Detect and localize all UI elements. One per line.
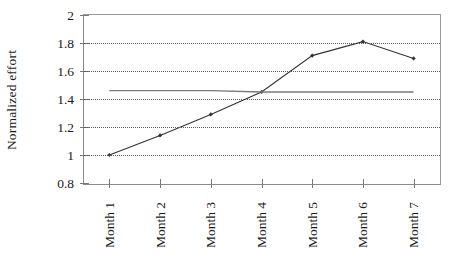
x-axis-tick-label-text: Month 4 — [254, 190, 270, 260]
x-axis-tick-label-text: Month 2 — [153, 190, 169, 260]
x-axis-tick-labels: Month 1Month 2Month 3Month 4Month 5Month… — [83, 185, 441, 269]
gridline — [84, 155, 440, 156]
y-axis-tick-labels: 0.811.21.41.61.82 — [26, 0, 78, 269]
x-axis-tick-label-text: Month 6 — [355, 190, 371, 260]
data-point-marker — [209, 112, 213, 116]
data-point-marker — [412, 56, 416, 60]
gridline — [84, 99, 440, 100]
y-axis-title-label: Normalized effort — [4, 50, 20, 150]
y-axis-tick-mark — [80, 15, 89, 16]
x-axis-tick-label-text: Month 3 — [203, 190, 219, 260]
y-axis-title: Normalized effort — [0, 14, 24, 186]
x-axis-tick-label-text: Month 5 — [305, 190, 321, 260]
gridline — [84, 43, 440, 44]
x-axis-tick-label: Month 7 — [379, 191, 449, 261]
y-axis-tick-label: 1.2 — [57, 120, 74, 136]
y-axis-tick-label: 1.6 — [57, 64, 74, 80]
y-axis-tick-label: 0.8 — [57, 176, 74, 192]
gridline — [84, 127, 440, 128]
plot-area — [83, 14, 441, 185]
data-point-marker — [158, 133, 162, 137]
gridline — [84, 71, 440, 72]
x-axis-tick-label-text: Month 7 — [406, 190, 422, 260]
y-axis-tick-label: 1.4 — [57, 92, 74, 108]
y-axis-tick-label: 1 — [67, 148, 74, 164]
x-axis-tick-label-text: Month 1 — [102, 190, 118, 260]
line-chart: Normalized effort 0.811.21.41.61.82 Mont… — [0, 0, 459, 269]
y-axis-tick-label: 2 — [67, 8, 74, 24]
y-axis-tick-label: 1.8 — [57, 36, 74, 52]
y-axis-tick-mark — [80, 183, 89, 184]
